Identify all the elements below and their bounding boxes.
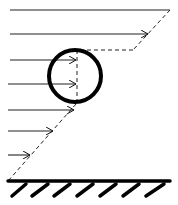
- cylinder: [49, 50, 101, 102]
- upper-profile-diagonal: [133, 10, 170, 50]
- lower-profile-diagonal: [8, 104, 76, 181]
- velocity-arrows: [8, 10, 170, 155]
- wall-hatching: [12, 184, 164, 196]
- flow-diagram: [0, 0, 178, 205]
- fixed-wall: [8, 181, 170, 196]
